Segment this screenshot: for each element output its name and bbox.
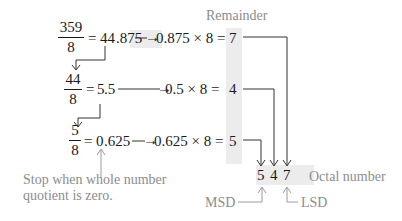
whole-quotient: 0 (96, 134, 104, 149)
octal-digit-middle: 4 (270, 168, 278, 183)
stop-note-line-2: quotient is zero. (23, 188, 166, 204)
octal-digit-lsd: 7 (283, 168, 291, 183)
octal-digit-msd: 5 (257, 168, 265, 183)
multiply-expression: 0.5 × 8 = (165, 82, 219, 97)
denominator: 8 (69, 143, 81, 158)
whole-quotient: 44 (100, 31, 115, 46)
equals-sign: = (88, 31, 96, 46)
denominator: 8 (64, 92, 82, 107)
remainder-digit: 4 (229, 82, 237, 97)
multiply-expression: 0.625 × 8 = (154, 134, 223, 149)
msd-label: MSD (205, 195, 235, 211)
denominator: 8 (58, 40, 84, 55)
fraction-44-over-8: 44 8 (64, 72, 82, 107)
fractional-part: .625 (104, 134, 130, 149)
lsd-label: LSD (301, 195, 327, 211)
remainder-digit: 7 (229, 31, 237, 46)
multiply-expression: 0.875 × 8 = (156, 31, 225, 46)
numerator: 5 (69, 123, 81, 138)
equals-sign: = (86, 82, 94, 97)
remainder-label: Remainder (206, 8, 267, 24)
fraction-5-over-8: 5 8 (69, 123, 81, 158)
numerator: 359 (58, 20, 84, 35)
fraction-359-over-8: 359 8 (58, 20, 84, 55)
stop-note-line-1: Stop when whole number (23, 172, 166, 188)
numerator: 44 (64, 72, 82, 87)
remainder-digit: 5 (229, 134, 237, 149)
fractional-part: .5 (104, 82, 115, 97)
stop-note: Stop when whole number quotient is zero. (23, 172, 166, 204)
octal-number-label: Octal number (309, 169, 386, 185)
equals-sign: = (84, 134, 92, 149)
fractional-part: .875 (116, 31, 142, 46)
